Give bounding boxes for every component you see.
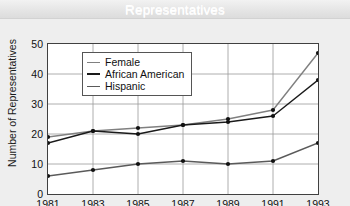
y-tick-label: 20 xyxy=(19,129,43,140)
x-tick-label: 1981 xyxy=(28,199,68,206)
data-point xyxy=(271,108,275,112)
legend-label: Hispanic xyxy=(105,80,145,92)
legend-label: Female xyxy=(105,56,140,68)
y-tick-label: 10 xyxy=(19,159,43,170)
data-point xyxy=(271,114,275,118)
y-tick-label: 40 xyxy=(19,69,43,80)
chart-title: Representatives xyxy=(0,0,350,19)
legend-item: African American xyxy=(87,68,184,80)
y-tick-label: 30 xyxy=(19,99,43,110)
data-point xyxy=(181,123,185,127)
data-point xyxy=(271,159,275,163)
legend-swatch-icon xyxy=(87,62,100,63)
x-tick-label: 1987 xyxy=(163,199,203,206)
data-point xyxy=(226,162,230,166)
x-tick-label: 1985 xyxy=(118,199,158,206)
data-point xyxy=(48,141,50,145)
data-point xyxy=(91,129,95,133)
data-point xyxy=(136,126,140,130)
x-tick-label: 1983 xyxy=(73,199,113,206)
data-point xyxy=(136,162,140,166)
chart-legend: FemaleAfrican AmericanHispanic xyxy=(82,52,192,96)
chart-canvas: Number of Representatives 01020304050 19… xyxy=(0,19,350,206)
x-tick-label: 1991 xyxy=(253,199,293,206)
x-axis-tick-labels: 1981198319851987198919911993 xyxy=(47,199,319,206)
data-point xyxy=(181,159,185,163)
x-tick-label: 1993 xyxy=(298,199,338,206)
legend-item: Hispanic xyxy=(87,80,184,92)
data-point xyxy=(48,174,50,178)
data-point xyxy=(226,120,230,124)
data-point xyxy=(136,132,140,136)
chart-figure: Representatives Number of Representative… xyxy=(0,0,350,206)
legend-item: Female xyxy=(87,56,184,68)
data-point xyxy=(48,135,50,139)
data-point xyxy=(91,168,95,172)
data-point xyxy=(316,141,318,145)
legend-swatch-icon xyxy=(87,73,100,75)
y-axis-tick-labels: 01020304050 xyxy=(16,43,43,195)
legend-label: African American xyxy=(105,68,184,80)
x-tick-label: 1989 xyxy=(208,199,248,206)
legend-swatch-icon xyxy=(87,86,100,87)
y-tick-label: 50 xyxy=(19,39,43,50)
chart-title-bar: Representatives xyxy=(0,0,350,19)
